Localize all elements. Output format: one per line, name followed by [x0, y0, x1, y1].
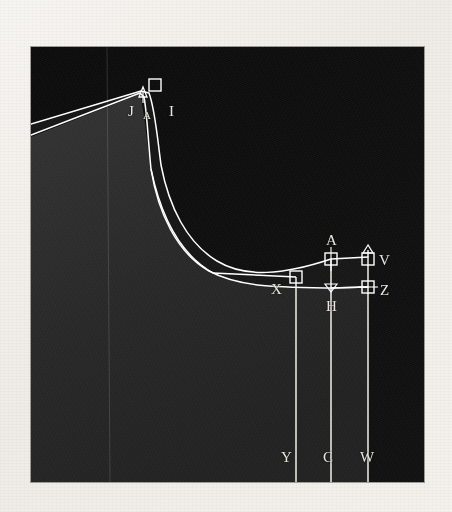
label-C: C — [323, 450, 333, 465]
figure-root: J A I A V X H Z Y C W — [0, 0, 452, 512]
label-W: W — [360, 450, 374, 465]
label-A-right: A — [326, 233, 337, 248]
scan-plate: J A I A V X H Z Y C W — [31, 47, 424, 482]
contour-overlay — [31, 47, 424, 482]
label-X: X — [271, 282, 282, 297]
label-I: I — [169, 104, 174, 119]
label-Y: Y — [281, 450, 292, 465]
label-A-peak: A — [143, 110, 151, 121]
label-Z: Z — [380, 283, 389, 298]
label-J: J — [128, 104, 134, 119]
label-H: H — [326, 299, 337, 314]
label-V: V — [379, 253, 390, 268]
